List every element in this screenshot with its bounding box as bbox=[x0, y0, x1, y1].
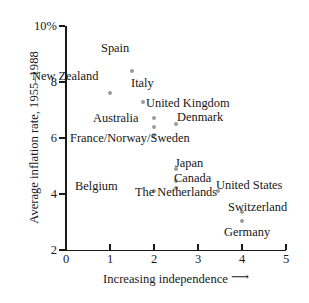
data-point-label: Denmark bbox=[177, 111, 223, 124]
data-point bbox=[152, 125, 156, 129]
x-tick-label: 4 bbox=[232, 253, 252, 266]
x-tick bbox=[285, 244, 286, 250]
data-point-label: Italy bbox=[131, 77, 154, 90]
data-point bbox=[141, 100, 145, 104]
data-point-label: The Netherlands bbox=[131, 186, 221, 199]
y-axis-title: Average inflation rate, 1955–1988 bbox=[27, 38, 42, 238]
y-tick bbox=[59, 137, 65, 138]
data-point-label: France/Norway/Sweden bbox=[70, 132, 190, 145]
x-axis-title: Increasing independence⟶ bbox=[66, 271, 286, 287]
data-point-label: Belgium bbox=[75, 180, 118, 193]
data-point-label: Canada bbox=[174, 172, 211, 185]
x-tick bbox=[241, 244, 242, 250]
x-axis-line bbox=[65, 250, 286, 252]
y-tick-label: 4 bbox=[51, 188, 57, 201]
data-point-label: New Zealand bbox=[32, 70, 98, 83]
x-axis-title-text: Increasing independence bbox=[103, 272, 228, 286]
data-point bbox=[108, 91, 112, 95]
data-point bbox=[152, 116, 156, 120]
x-tick-label: 0 bbox=[56, 253, 76, 266]
data-point-label: Germany bbox=[224, 226, 270, 239]
data-point bbox=[240, 219, 244, 223]
data-point-label: Australia bbox=[93, 112, 138, 125]
scatter-chart: 246810% 012345 SpainNew ZealandItalyUnit… bbox=[0, 0, 309, 303]
x-tick-label: 5 bbox=[276, 253, 296, 266]
y-tick-label: 6 bbox=[51, 132, 57, 145]
data-point-label: Switzerland bbox=[228, 201, 287, 214]
data-point-label: United Kingdom bbox=[146, 97, 230, 110]
y-axis-line bbox=[65, 26, 67, 251]
y-tick bbox=[59, 193, 65, 194]
x-tick-label: 1 bbox=[100, 253, 120, 266]
x-tick bbox=[109, 244, 110, 250]
data-point-label: Spain bbox=[101, 42, 129, 55]
data-point-label: United States bbox=[216, 179, 282, 192]
x-tick bbox=[153, 244, 154, 250]
x-tick-label: 3 bbox=[188, 253, 208, 266]
y-tick-label: 10% bbox=[34, 20, 57, 33]
y-tick bbox=[59, 249, 65, 250]
y-tick bbox=[59, 25, 65, 26]
x-tick bbox=[65, 244, 66, 250]
x-tick bbox=[197, 244, 198, 250]
x-tick-label: 2 bbox=[144, 253, 164, 266]
data-point bbox=[130, 69, 134, 73]
data-point-label: Japan bbox=[175, 157, 203, 170]
right-arrow-icon: ⟶ bbox=[231, 269, 249, 285]
